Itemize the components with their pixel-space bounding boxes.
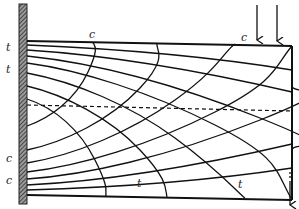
wall-support — [19, 4, 27, 204]
label-c-left-1: c — [6, 152, 12, 165]
label-t-bottom-2: t — [238, 178, 243, 191]
label-c-left-2: c — [6, 174, 12, 187]
label-c-top-2: c — [241, 31, 247, 44]
cantilever-stress-diagram: t t c c c c t t — [0, 0, 299, 209]
load-arrows — [257, 5, 277, 41]
label-c-top-1: c — [89, 28, 95, 41]
compression-trajectories — [27, 42, 299, 190]
label-t-bottom-1: t — [137, 177, 142, 190]
label-t-left-2: t — [6, 63, 11, 76]
tension-trajectories — [27, 45, 299, 200]
beam-outline — [27, 41, 292, 200]
label-t-left-1: t — [6, 41, 11, 54]
